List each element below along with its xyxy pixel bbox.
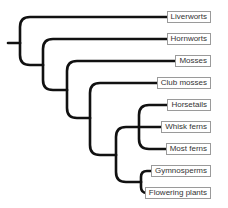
branch-club-mosses [90,83,163,118]
branch-seed-plants [116,155,141,182]
taxon-label-hornworts: Hornworts [167,33,211,45]
taxon-label-flowering-plants: Flowering plants [145,187,211,199]
branch-node3 [43,65,67,90]
taxon-label-gymnosperms: Gymnosperms [151,165,211,177]
taxon-label-whisk-ferns: Whisk ferns [161,121,211,133]
taxon-label-club-mosses: Club mosses [157,77,211,89]
taxon-label-most-ferns: Most ferns [166,143,211,155]
taxon-label-mosses: Mosses [175,55,211,67]
branch-node2 [20,43,43,65]
branch-node5 [90,118,116,155]
taxon-label-liverworts: Liverworts [167,11,211,23]
branch-ferns-clade [116,127,139,155]
taxon-label-horsetails: Horsetails [167,99,211,111]
branch-node4 [67,90,90,118]
